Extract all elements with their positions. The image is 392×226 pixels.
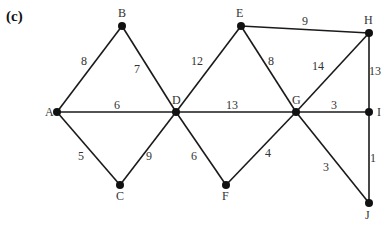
edge-weight-E-G: 8	[268, 54, 274, 68]
edge-weight-C-D: 9	[146, 149, 152, 163]
edge-weight-I-J: 1	[370, 151, 376, 165]
edge-weight-B-D: 7	[134, 62, 140, 76]
edge-weight-G-H: 14	[312, 59, 324, 73]
edge-E-G	[241, 26, 296, 112]
node-label-D: D	[172, 93, 181, 107]
figure-label: (c)	[6, 8, 23, 25]
node-J	[365, 199, 373, 207]
node-H	[365, 29, 373, 37]
node-F	[222, 181, 230, 189]
node-label-A: A	[45, 105, 54, 119]
edge-weight-D-G: 13	[226, 98, 238, 112]
edge-G-J	[296, 112, 369, 203]
edge-B-D	[122, 26, 176, 112]
edge-D-F	[176, 112, 226, 185]
edge-weight-G-J: 3	[323, 160, 329, 174]
node-label-G: G	[292, 93, 301, 107]
edge-A-B	[57, 26, 122, 112]
edge-weight-A-B: 8	[81, 54, 87, 68]
edge-A-C	[57, 112, 120, 185]
node-C	[116, 181, 124, 189]
node-label-I: I	[377, 105, 381, 119]
edge-weight-D-F: 6	[191, 149, 197, 163]
node-label-J: J	[365, 208, 370, 222]
edge-weight-H-I: 13	[369, 64, 381, 78]
node-B	[118, 22, 126, 30]
node-G	[292, 108, 300, 116]
node-label-E: E	[236, 6, 243, 20]
edge-weight-D-E: 12	[191, 54, 203, 68]
edge-weight-F-G: 4	[265, 146, 271, 160]
edge-weight-G-I: 3	[331, 98, 337, 112]
node-label-C: C	[116, 189, 124, 203]
edge-weights-group: 87659128913641431331	[78, 14, 381, 174]
edges-group	[57, 26, 369, 203]
node-E	[237, 22, 245, 30]
edge-weight-E-H: 9	[302, 14, 308, 28]
node-label-B: B	[118, 6, 126, 20]
node-I	[365, 108, 373, 116]
edge-weight-A-C: 5	[78, 149, 84, 163]
node-label-F: F	[222, 189, 229, 203]
edge-weight-A-D: 6	[114, 98, 120, 112]
node-labels-group: ABCDEFGHIJ	[45, 6, 381, 222]
node-A	[53, 108, 61, 116]
nodes-group	[53, 22, 373, 207]
edge-F-G	[226, 112, 296, 185]
weighted-graph-diagram: (c) 87659128913641431331 ABCDEFGHIJ	[0, 0, 392, 226]
node-D	[172, 108, 180, 116]
node-label-H: H	[364, 13, 373, 27]
